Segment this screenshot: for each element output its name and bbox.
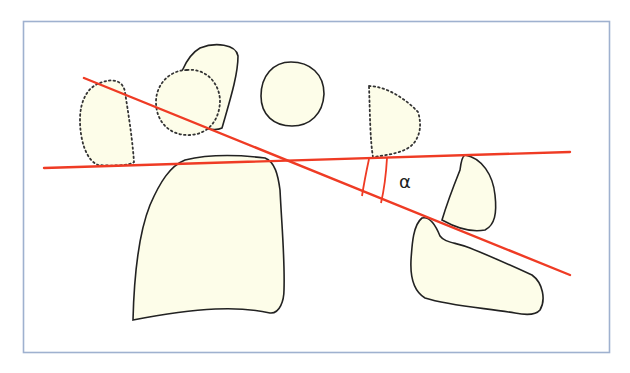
round-shape — [261, 62, 324, 126]
diagram-canvas: α — [0, 0, 630, 373]
dotted-circle — [156, 70, 220, 135]
angle-alpha-label: α — [399, 171, 411, 192]
dotted-left-oval — [80, 80, 134, 165]
